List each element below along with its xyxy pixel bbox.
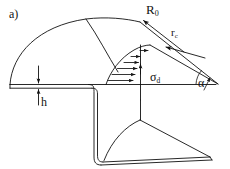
R0-leader-arrow bbox=[144, 21, 185, 53]
top-flange-sheet bbox=[10, 85, 216, 89]
rc-leader-arrow bbox=[166, 47, 205, 58]
roller-radius-symbol: R bbox=[146, 2, 155, 17]
roller-radius-label: R0 bbox=[146, 3, 159, 18]
panel-label: a) bbox=[9, 8, 18, 20]
figure-panel-a: a) R0 rc σd α h bbox=[0, 0, 230, 169]
section-web bbox=[89, 85, 104, 166]
contact-radius-label: rc bbox=[171, 27, 178, 40]
diagram-canvas bbox=[0, 0, 230, 169]
contact-radius-subscript: c bbox=[175, 32, 178, 39]
bottom-flange bbox=[101, 157, 212, 165]
sheet-thickness-label: h bbox=[41, 96, 47, 108]
deformation-stress-label: σd bbox=[150, 71, 160, 85]
contact-angle-label: α bbox=[198, 77, 204, 89]
web-fillet-perspective bbox=[104, 100, 210, 161]
roller-radius-subscript: 0 bbox=[155, 9, 159, 18]
deformation-stress-subscript: d bbox=[156, 76, 160, 85]
